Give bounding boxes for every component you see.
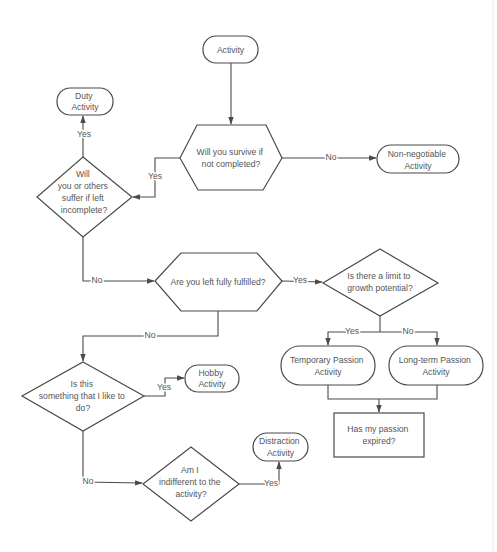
- edge-passion-expired: [328, 385, 437, 412]
- edge-label-no: No: [83, 476, 94, 486]
- node-survive-question: Will you survive if not completed?: [180, 125, 282, 190]
- edge-label-no: No: [92, 275, 103, 285]
- edge-label-yes: Yes: [77, 129, 91, 139]
- edge-label-no: No: [145, 330, 156, 340]
- svg-text:Activity: Activity: [217, 45, 245, 55]
- edge-limit-branches: Yes No: [328, 316, 437, 345]
- node-fulfilled-question: Are you left fully fulfilled?: [155, 253, 282, 311]
- edge-survive-non-negotiable: No: [282, 152, 376, 162]
- edge-like-indifferent: No: [83, 431, 143, 486]
- node-passion-expired-question: Has my passion expired?: [334, 413, 424, 457]
- edge-fulfilled-like: No: [83, 311, 218, 361]
- edge-label-no: No: [403, 326, 414, 336]
- edge-suffer-duty: Yes: [77, 116, 91, 157]
- node-temporary-passion-activity: Temporary Passion Activity: [281, 346, 375, 385]
- node-distraction-activity: Distraction Activity: [253, 433, 308, 461]
- edge-label-yes: Yes: [148, 171, 162, 181]
- edge-label-yes: Yes: [293, 275, 307, 285]
- edge-survive-suffer: Yes: [133, 158, 180, 197]
- node-non-negotiable-activity: Non-negotiable Activity: [377, 145, 459, 173]
- edge-fulfilled-limit: Yes: [282, 275, 322, 285]
- node-longterm-passion-activity: Long-term Passion Activity: [389, 346, 483, 385]
- svg-text:Are you left fully fulfilled?: Are you left fully fulfilled?: [170, 277, 265, 287]
- edge-label-no: No: [326, 152, 337, 162]
- node-activity: Activity: [203, 36, 258, 63]
- edge-like-hobby: Yes: [144, 378, 184, 396]
- node-hobby-activity: Hobby Activity: [185, 365, 239, 392]
- node-indifferent-question: Am I indifferent to the activity?: [143, 447, 239, 521]
- edge-indifferent-distraction: Yes: [239, 462, 279, 488]
- flowchart-canvas: No Yes Yes No Yes Yes No No Yes No: [0, 0, 497, 552]
- edge-suffer-fulfilled: No: [83, 237, 154, 285]
- node-like-question: Is this something that I like to do?: [22, 362, 144, 431]
- node-limit-question: Is there a limit to growth potential?: [323, 249, 438, 316]
- edge-label-yes: Yes: [264, 478, 278, 488]
- edge-label-yes: Yes: [157, 382, 171, 392]
- edge-label-yes: Yes: [345, 326, 359, 336]
- node-suffer-question: Will you or others suffer if left incomp…: [37, 157, 132, 237]
- svg-text:Hobby Activity: Hobby Activity: [198, 368, 226, 389]
- node-duty-activity: Duty Activity: [57, 88, 113, 115]
